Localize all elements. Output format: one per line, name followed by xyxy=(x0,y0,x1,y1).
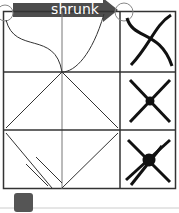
curve xyxy=(62,14,104,72)
shrunk-label: shrunk xyxy=(40,1,110,18)
diagram-canvas xyxy=(0,0,179,213)
curved-arrows-icon xyxy=(127,15,172,66)
curve xyxy=(6,20,62,72)
corner-circle-left xyxy=(0,5,13,21)
cross-arrows-icon xyxy=(130,80,170,122)
slider-handle[interactable] xyxy=(14,193,33,212)
cross-arrows-offset-icon xyxy=(126,140,170,185)
